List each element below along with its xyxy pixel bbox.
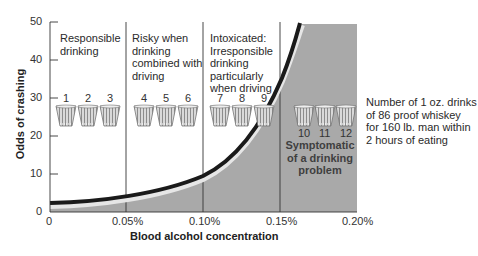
drink-number: 12 [340, 127, 352, 139]
drinks-annotation: Number of 1 oz. drinksof 86 proof whiske… [366, 96, 477, 146]
drink-number: 3 [107, 92, 113, 104]
region-label-intoxicated: Intoxicated:Irresponsible drinkingpartic… [210, 32, 273, 95]
x-tick-0.10: 0.10% [189, 215, 220, 227]
drink-number: 1 [63, 92, 69, 104]
y-axis-title: Odds of crashing [14, 64, 26, 164]
x-axis-title: Blood alcohol concentration [130, 230, 279, 242]
drink-number: 11 [319, 127, 330, 139]
y-tick-50: 50 [30, 15, 42, 27]
y-tick-0: 0 [36, 205, 42, 217]
x-tick-0: 0 [46, 215, 52, 227]
drink-cups [56, 105, 356, 126]
drink-number: 6 [185, 92, 191, 104]
x-tick-0.15: 0.15% [266, 215, 297, 227]
drink-number: 10 [298, 127, 310, 139]
y-tick-20: 20 [30, 129, 42, 141]
region-label-risky: Risky whendrinking combined withdriving [132, 32, 202, 82]
drink-number: 4 [141, 92, 147, 104]
drink-number: 2 [85, 92, 91, 104]
drink-number: 9 [261, 92, 267, 104]
y-tick-30: 30 [30, 91, 42, 103]
y-tick-10: 10 [30, 167, 42, 179]
drink-number: 7 [217, 92, 223, 104]
region-label-responsible: Responsibledrinking [60, 32, 121, 57]
x-tick-0.20: 0.20% [342, 215, 373, 227]
drink-number: 5 [163, 92, 169, 104]
y-ticks [50, 22, 58, 174]
x-tick-0.05: 0.05% [112, 215, 143, 227]
y-tick-40: 40 [30, 53, 42, 65]
region-label-symptomatic: Symptomaticof a drinkingproblem [282, 139, 358, 177]
drink-number: 8 [239, 92, 245, 104]
